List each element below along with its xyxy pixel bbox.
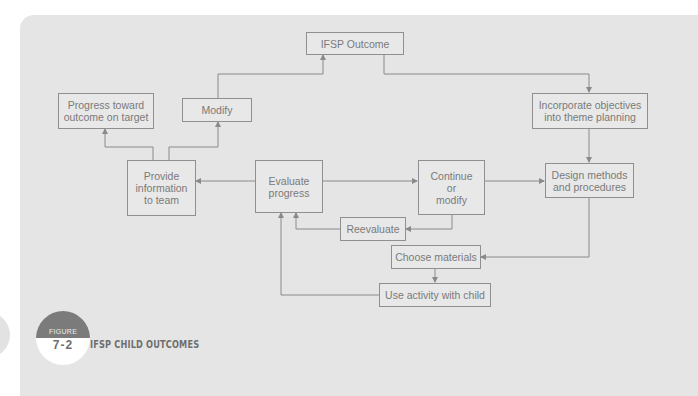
flow-connectors bbox=[0, 0, 698, 396]
node-ifsp-outcome: IFSP Outcome bbox=[306, 32, 404, 55]
node-progress-on-target: Progress toward outcome on target bbox=[58, 93, 154, 129]
node-continue-or-modify: Continue or modify bbox=[418, 160, 485, 215]
node-provide-information: Provide information to team bbox=[127, 160, 196, 216]
node-reevaluate: Reevaluate bbox=[340, 217, 406, 241]
node-use-activity: Use activity with child bbox=[379, 283, 491, 307]
node-design-methods: Design methods and procedures bbox=[545, 163, 634, 198]
node-choose-materials: Choose materials bbox=[391, 245, 481, 269]
figure-number: 7-2 bbox=[36, 338, 90, 352]
figure-badge: FIGURE 7-2 bbox=[36, 311, 90, 365]
figure-word: FIGURE bbox=[36, 328, 90, 335]
node-evaluate-progress: Evaluate progress bbox=[255, 160, 323, 213]
node-incorporate-objectives: Incorporate objectives into theme planni… bbox=[532, 93, 648, 129]
figure-title: IFSP CHILD OUTCOMES bbox=[90, 339, 199, 350]
node-modify: Modify bbox=[182, 98, 252, 122]
